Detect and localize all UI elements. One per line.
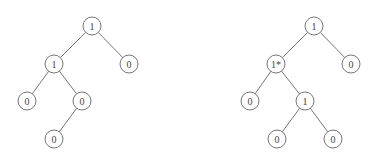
node-label: 0 <box>127 59 132 70</box>
right-tree-node: 0 <box>324 130 342 148</box>
right-tree-node: 1* <box>267 55 285 73</box>
node-label: 1 <box>303 96 308 107</box>
right-tree-edge-e-g <box>310 108 327 132</box>
right-tree-edge-b-e <box>282 71 300 94</box>
right-tree-edge-a-c <box>320 32 344 57</box>
tree-nodes: 11000011*00100 <box>18 17 360 148</box>
node-label: 1 <box>52 59 57 70</box>
right-tree-edge-e-f <box>282 108 299 132</box>
node-label: 0 <box>52 134 57 145</box>
left-tree-edge-b-d <box>32 71 48 93</box>
left-tree-edge-a-c <box>98 32 122 57</box>
node-label: 0 <box>331 134 336 145</box>
right-tree-edge-a-b <box>282 32 307 57</box>
left-tree-edge-a-b <box>60 32 85 57</box>
tree-diagram-canvas: 11000011*00100 <box>0 0 375 165</box>
left-tree-node: 1 <box>45 55 63 73</box>
node-label: 0 <box>349 59 354 70</box>
node-label: 0 <box>248 96 253 107</box>
node-label: 1 <box>90 21 95 32</box>
left-tree-edge-e-f <box>59 108 76 132</box>
node-label: 1 <box>312 21 317 32</box>
node-label: 0 <box>25 96 30 107</box>
left-tree-edge-b-e <box>59 71 76 94</box>
left-tree-node: 0 <box>45 130 63 148</box>
right-tree-node: 0 <box>241 92 259 110</box>
right-tree-node: 0 <box>342 55 360 73</box>
right-tree-node: 0 <box>268 130 286 148</box>
left-tree-node: 0 <box>73 92 91 110</box>
left-tree-node: 1 <box>83 17 101 35</box>
right-tree-node: 1 <box>296 92 314 110</box>
node-label: 0 <box>80 96 85 107</box>
right-tree-edge-b-d <box>255 71 271 93</box>
left-tree-node: 0 <box>18 92 36 110</box>
node-label: 0 <box>275 134 280 145</box>
node-label: 1* <box>271 59 281 70</box>
tree-edges <box>32 32 344 131</box>
right-tree-node: 1 <box>305 17 323 35</box>
left-tree-node: 0 <box>120 55 138 73</box>
